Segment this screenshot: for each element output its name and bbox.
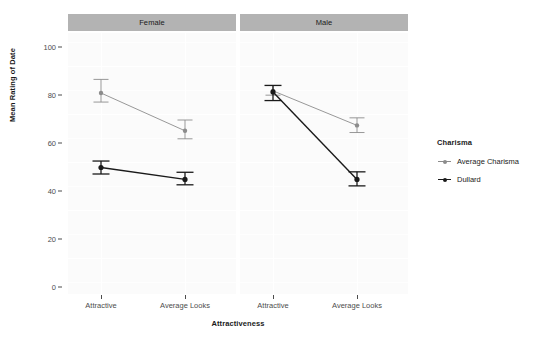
x-tick-mark-attractive-male <box>273 295 274 299</box>
facet-panel-female: Female <box>68 14 236 294</box>
x-tick-mark-average-looks-female <box>185 295 186 299</box>
x-tick-mark-attractive-female <box>101 295 102 299</box>
y-tick-mark-40 <box>58 191 62 192</box>
y-axis-title: Mean Rating of Date <box>8 5 17 165</box>
legend-label-dullard: Dullard <box>457 175 481 184</box>
facet-strip-male: Male <box>240 14 408 31</box>
series-group-average-charisma <box>94 79 193 138</box>
x-tick-label-average-looks-female: Average Looks <box>160 301 210 310</box>
x-axis-title: Attractiveness <box>68 319 408 328</box>
facet-strip-label-male: Male <box>316 18 333 27</box>
y-tick-mark-80 <box>58 95 62 96</box>
y-tick-label-20: 20 <box>48 235 56 244</box>
female-series-svg <box>68 33 236 294</box>
panel-area-female <box>68 33 236 294</box>
y-tick-label-40: 40 <box>48 187 56 196</box>
y-tick-mark-20 <box>58 239 62 240</box>
series-line <box>101 168 185 180</box>
y-tick-label-0: 0 <box>52 283 56 292</box>
data-point <box>355 123 359 127</box>
panel-area-male <box>240 33 408 294</box>
y-tick-mark-0 <box>58 287 62 288</box>
series-group-dullard <box>265 85 366 185</box>
data-point <box>98 165 103 170</box>
data-point <box>270 89 275 94</box>
y-tick-label-80: 80 <box>48 91 56 100</box>
legend-item-dullard[interactable]: Dullard <box>437 172 541 187</box>
series-line <box>273 91 357 126</box>
male-series-svg <box>240 33 408 294</box>
x-tick-label-attractive-male: Attractive <box>257 301 288 310</box>
legend-label-average-charisma: Average Charisma <box>457 157 519 166</box>
x-tick-label-average-looks-male: Average Looks <box>332 301 382 310</box>
series-line <box>101 93 185 131</box>
legend-item-average-charisma[interactable]: Average Charisma <box>437 154 541 169</box>
data-point <box>354 177 359 182</box>
chart-plot-area: Mean Rating of Date 100 80 60 40 20 0 Fe… <box>0 0 544 341</box>
facet-panel-male: Male <box>240 14 408 294</box>
facet-strip-label-female: Female <box>139 18 165 27</box>
y-axis-ticks: 100 80 60 40 20 0 <box>24 40 62 294</box>
x-tick-label-attractive-female: Attractive <box>85 301 116 310</box>
series-line <box>273 92 357 179</box>
data-point <box>99 91 103 95</box>
y-tick-label-100: 100 <box>43 43 56 52</box>
facet-strip-female: Female <box>68 14 236 31</box>
y-tick-mark-60 <box>58 143 62 144</box>
series-group-average-charisma <box>266 85 365 132</box>
legend-key-average-charisma-icon <box>437 154 452 169</box>
y-tick-label-60: 60 <box>48 139 56 148</box>
legend-title: Charisma <box>437 138 541 147</box>
data-point <box>182 177 187 182</box>
series-group-dullard <box>93 161 194 185</box>
y-tick-mark-100 <box>58 47 62 48</box>
data-point <box>183 129 187 133</box>
chart-legend: Charisma Average Charisma Dullard <box>437 138 541 190</box>
legend-key-dullard-icon <box>437 172 452 187</box>
x-tick-mark-average-looks-male <box>357 295 358 299</box>
